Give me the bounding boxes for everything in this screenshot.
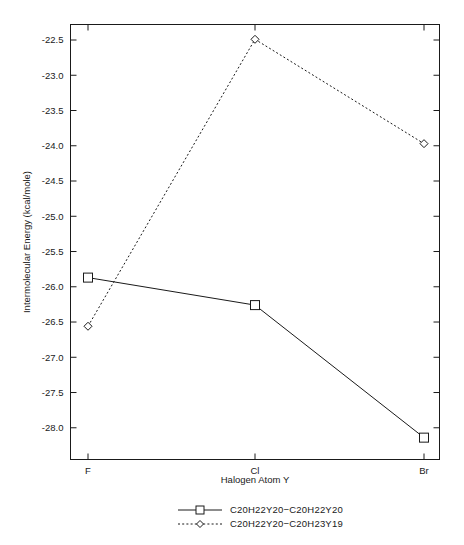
y-tick-label: -28.0 [42, 422, 64, 433]
x-tick-label: Br [419, 465, 429, 476]
x-axis-ticks [88, 25, 424, 460]
data-point-diamond [420, 140, 428, 148]
data-point-diamond [197, 521, 204, 528]
data-point-square [196, 506, 204, 514]
plot-frame [71, 25, 440, 460]
legend-label: C20H22Y20−C20H23Y19 [230, 518, 343, 529]
y-axis-tick-labels: -22.5-23.0-23.5-24.0-24.5-25.0-25.5-26.0… [42, 34, 64, 433]
y-tick-label: -25.5 [42, 246, 64, 257]
line-chart: -22.5-23.0-23.5-24.0-24.5-25.0-25.5-26.0… [0, 0, 464, 545]
x-tick-label: F [85, 465, 91, 476]
y-tick-label: -26.5 [42, 316, 64, 327]
series-2 [84, 35, 428, 330]
y-axis-ticks-right [434, 40, 440, 428]
series-line [88, 39, 424, 326]
legend-item-1[interactable]: C20H22Y20−C20H22Y20 [178, 504, 343, 515]
y-tick-label: -25.0 [42, 211, 64, 222]
data-series-layer [84, 35, 429, 442]
legend-label: C20H22Y20−C20H22Y20 [230, 504, 343, 515]
y-axis-title: Intermolecular Energy (kcal/mole) [21, 171, 32, 313]
x-axis-title: Halogen Atom Y [221, 474, 290, 485]
data-point-square [420, 433, 429, 442]
chart-figure: -22.5-23.0-23.5-24.0-24.5-25.0-25.5-26.0… [0, 0, 464, 545]
y-tick-label: -26.0 [42, 281, 64, 292]
data-point-square [251, 301, 260, 310]
y-tick-label: -24.0 [42, 140, 64, 151]
y-tick-label: -27.0 [42, 352, 64, 363]
data-point-diamond [84, 322, 92, 330]
y-tick-label: -27.5 [42, 387, 64, 398]
y-tick-label: -23.5 [42, 105, 64, 116]
y-axis-ticks-left [71, 40, 77, 428]
y-tick-label: -24.5 [42, 175, 64, 186]
legend-item-2[interactable]: C20H22Y20−C20H23Y19 [178, 518, 343, 529]
chart-legend: C20H22Y20−C20H22Y20C20H22Y20−C20H23Y19 [178, 504, 343, 529]
y-tick-label: -22.5 [42, 34, 64, 45]
series-1 [84, 273, 429, 442]
y-tick-label: -23.0 [42, 70, 64, 81]
data-point-square [84, 273, 93, 282]
data-point-diamond [251, 35, 259, 43]
